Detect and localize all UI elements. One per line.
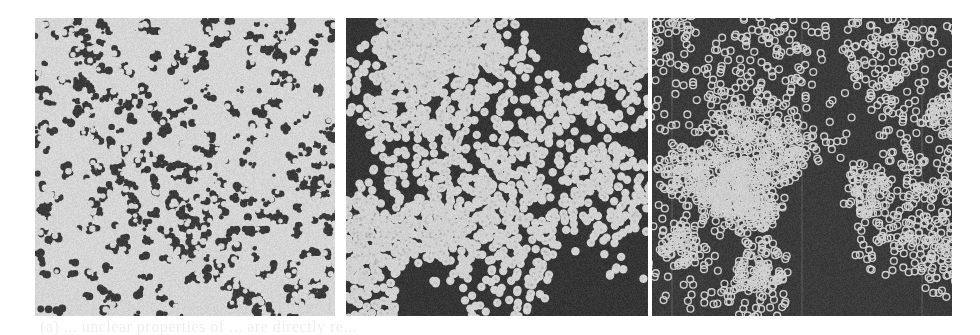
figure: (a) ... unclear properties of ... are di… <box>0 0 980 335</box>
bleed-through-text: (a) ... unclear properties of ... are di… <box>40 318 940 334</box>
panel-b-disk-cluster-image <box>346 18 648 316</box>
panel-a-light-matrix-image <box>35 18 335 316</box>
panel-a-canvas <box>35 18 335 316</box>
panel-c-canvas <box>652 18 952 316</box>
panel-c-ring-disk-image <box>652 18 952 316</box>
panel-b-canvas <box>346 18 648 316</box>
